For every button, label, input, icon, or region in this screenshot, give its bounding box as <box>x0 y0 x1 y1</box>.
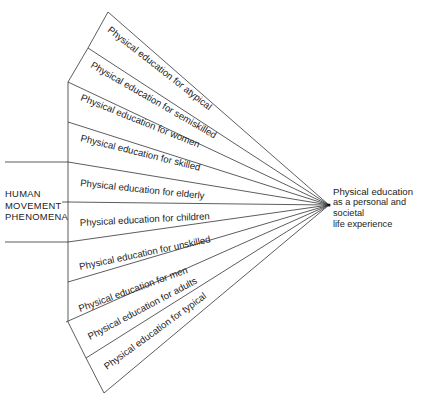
source-label-line: MOVEMENT <box>5 200 68 212</box>
target-title: Physical education <box>333 186 437 197</box>
convergence-point <box>327 203 330 206</box>
target-label: Physical education as a personal and soc… <box>333 186 437 230</box>
ray-line <box>86 205 329 358</box>
source-label-line: PHENOMENA <box>5 211 68 223</box>
ray-line <box>104 205 329 393</box>
wedge-label-children: Physical education for children <box>80 210 211 228</box>
source-label-line: HUMAN <box>5 188 68 200</box>
source-label: HUMAN MOVEMENT PHENOMENA <box>5 188 68 223</box>
target-subtitle-line: as a personal and societal <box>333 197 437 219</box>
ray-line <box>68 202 329 205</box>
target-subtitle-line: life experience <box>333 219 437 230</box>
ray-line <box>108 12 329 205</box>
wedge-label-elderly: Physical education for elderly <box>80 177 205 201</box>
